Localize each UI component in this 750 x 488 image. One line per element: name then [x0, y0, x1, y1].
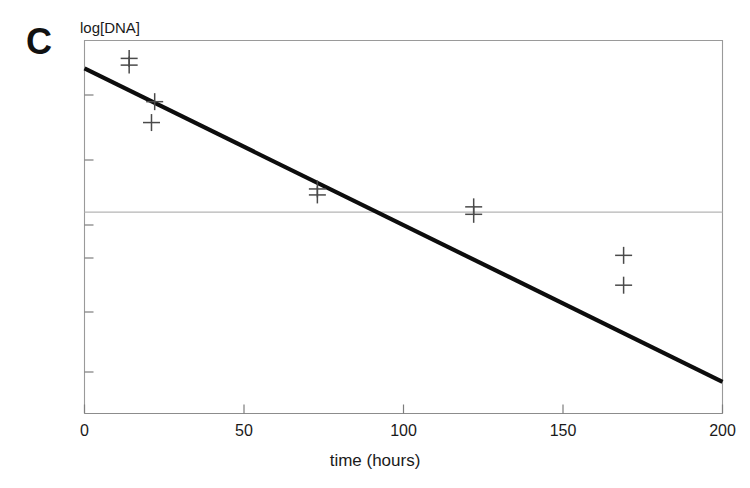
data-point-7: [465, 206, 482, 223]
x-tick-label-0: 0: [80, 422, 89, 439]
data-point-1: [121, 57, 138, 74]
scatter-plot: 050100150200: [0, 0, 750, 488]
figure-panel: C log[DNA] time (hours) 050100150200: [0, 0, 750, 488]
y-axis-ticks: [85, 95, 94, 372]
data-point-8: [615, 247, 632, 264]
regression-fit-line: [85, 68, 723, 381]
data-point-3: [143, 114, 160, 131]
fit-line: [85, 68, 723, 381]
x-axis-ticks: [85, 405, 723, 414]
data-point-9: [615, 277, 632, 294]
x-tick-labels: 050100150200: [80, 422, 736, 439]
x-tick-label-200: 200: [709, 422, 736, 439]
x-tick-label-100: 100: [390, 422, 417, 439]
x-tick-label-150: 150: [550, 422, 577, 439]
x-tick-label-50: 50: [235, 422, 253, 439]
data-markers: [121, 50, 632, 294]
